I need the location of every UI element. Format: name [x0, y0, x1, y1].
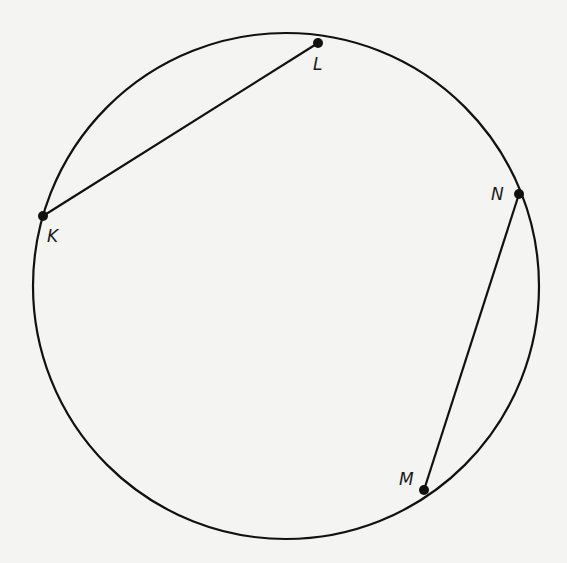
point-label-l: L	[313, 54, 322, 74]
point-n	[514, 189, 524, 199]
point-k	[38, 211, 48, 221]
point-label-k: K	[47, 226, 60, 246]
circle	[33, 33, 539, 539]
point-l	[313, 38, 323, 48]
point-m	[419, 485, 429, 495]
point-label-m: M	[399, 469, 414, 489]
chord-kl	[43, 43, 318, 216]
circle-diagram: LKNM	[0, 0, 567, 563]
chord-nm	[424, 194, 519, 490]
point-label-n: N	[491, 184, 504, 204]
